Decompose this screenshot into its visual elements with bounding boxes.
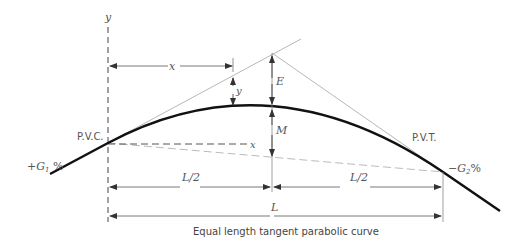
e-label: E	[275, 75, 284, 88]
y-axis-label: y	[104, 11, 112, 24]
x-axis-label: x	[250, 139, 256, 150]
grade-g2-label: −G2%	[448, 162, 481, 176]
parabolic-curve-diagram: y x E M x y P.V.C. P.V.T. +G1 % −G2% L/2…	[0, 0, 525, 244]
half-length-right-label: L/2	[349, 171, 368, 184]
pvt-label: P.V.T.	[412, 132, 436, 143]
m-label: M	[275, 124, 288, 137]
length-label: L	[270, 201, 278, 214]
half-length-left-label: L/2	[181, 171, 200, 184]
chord-line	[108, 143, 443, 172]
y-offset-label: y	[235, 85, 242, 96]
grade-g1-label: +G1 %	[27, 160, 63, 174]
pvc-label: P.V.C.	[77, 131, 104, 142]
x-offset-label: x	[169, 60, 176, 73]
caption: Equal length tangent parabolic curve	[193, 226, 379, 237]
parabolic-curve	[50, 105, 500, 211]
